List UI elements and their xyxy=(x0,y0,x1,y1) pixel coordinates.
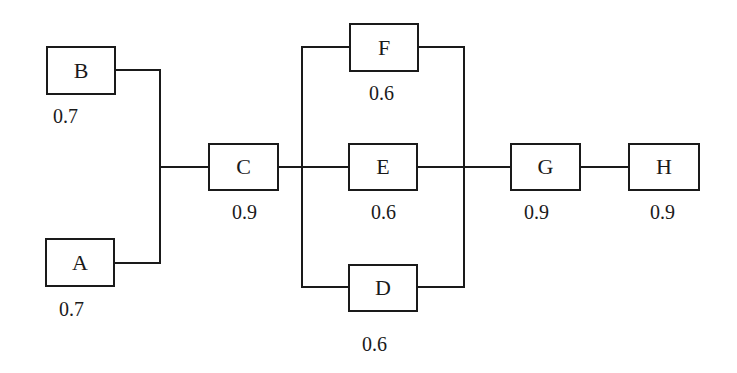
component-b: B xyxy=(46,46,116,95)
component-h-reliability: 0.9 xyxy=(650,201,675,224)
component-h: H xyxy=(628,143,700,191)
component-g-label: G xyxy=(538,154,554,180)
component-g: G xyxy=(510,143,581,191)
component-b-label: B xyxy=(74,58,89,84)
component-a: A xyxy=(45,238,115,287)
component-a-reliability: 0.7 xyxy=(59,298,84,321)
component-e-reliability: 0.6 xyxy=(371,201,396,224)
component-a-label: A xyxy=(72,250,88,276)
component-e: E xyxy=(348,143,418,191)
component-c-label: C xyxy=(236,154,251,180)
component-h-label: H xyxy=(656,154,672,180)
component-f-label: F xyxy=(378,35,390,61)
component-d-label: D xyxy=(375,275,391,301)
component-g-reliability: 0.9 xyxy=(524,201,549,224)
component-c-reliability: 0.9 xyxy=(232,201,257,224)
component-d: D xyxy=(348,264,418,312)
component-f-reliability: 0.6 xyxy=(369,82,394,105)
component-f: F xyxy=(349,23,419,72)
component-b-reliability: 0.7 xyxy=(53,105,78,128)
component-c: C xyxy=(208,143,279,191)
component-e-label: E xyxy=(376,154,389,180)
component-d-reliability: 0.6 xyxy=(362,333,387,356)
reliability-diagram: B 0.7 A 0.7 C 0.9 F 0.6 E 0.6 D 0.6 G 0.… xyxy=(0,0,737,373)
